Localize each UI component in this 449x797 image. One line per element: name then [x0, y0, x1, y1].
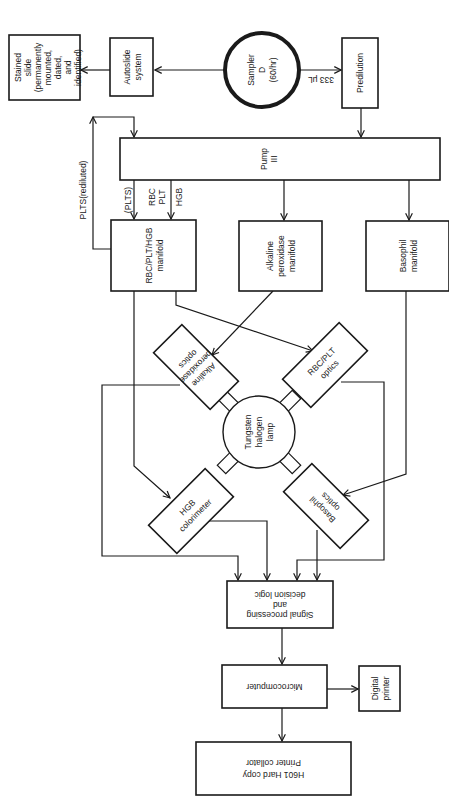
node-label: slide	[23, 58, 33, 76]
node-sampler: Sampler D (60/hr)	[225, 33, 299, 107]
node-label: decision logic	[254, 590, 306, 600]
node-signal-processing: Signal processing and decision logic	[227, 581, 333, 628]
node-label: manifold	[155, 239, 165, 271]
edge-rbc-manifold-hgb-colorimeter	[134, 291, 170, 498]
plts-label: (PLTS)	[123, 187, 133, 213]
node-label: Stained	[13, 53, 23, 82]
node-label: Predilution	[355, 53, 365, 93]
node-label: Pump	[259, 148, 269, 170]
node-stained-slide: Stained slide (permanently mounted, date…	[9, 35, 83, 100]
plts-rediluted-label: PLTS(rediluted)	[78, 160, 88, 219]
node-label: (60/hr)	[268, 57, 278, 82]
node-label: printer	[381, 676, 391, 700]
rbc-label: RBC	[147, 188, 157, 206]
node-rbc-plt-hgb-manifold: RBC/PLT/HGB manifold	[111, 220, 196, 291]
node-label: H601 Hard copy	[242, 770, 304, 780]
node-label: mounted,	[43, 50, 53, 85]
node-label: Digital	[370, 677, 380, 701]
edge-plts-rediluted-into-pump	[93, 117, 134, 137]
node-basophil-manifold: Basophil manifold	[366, 221, 449, 291]
node-tungsten-halogen-lamp: Tungsten halogen lamp	[223, 396, 295, 468]
plt-label: PLT	[157, 190, 167, 205]
node-label: Sampler	[246, 54, 256, 86]
node-hgb-colorimeter: HGB colorimeter	[149, 469, 234, 554]
node-label: Alkaline	[265, 241, 275, 271]
node-label: manifold	[409, 240, 419, 272]
node-label: Tungsten	[243, 414, 253, 449]
node-pump: Pump III	[120, 138, 440, 180]
edge-baso-manifold-baso-optics	[343, 291, 406, 495]
node-label: Signal processing	[246, 610, 313, 620]
node-label: Microcomputer	[246, 682, 302, 692]
node-label: and	[273, 600, 287, 610]
node-label: dated,	[53, 56, 63, 80]
edge-plts-rediluted-up	[93, 117, 111, 249]
node-alkaline-peroxidase-manifold: Alkaline peroxidase manifold	[239, 221, 322, 291]
node-label: identified)	[73, 49, 83, 86]
node-autoslide-system: Autoslide system	[110, 38, 153, 96]
hgb-label: HGB	[174, 187, 184, 206]
node-label: system	[133, 54, 143, 81]
node-label: D	[257, 67, 267, 73]
node-digital-printer: Digital printer	[359, 666, 400, 711]
node-label: (permanently	[33, 42, 43, 92]
node-label: and	[63, 60, 73, 74]
node-label: Printer collator	[246, 758, 301, 768]
node-label: III	[269, 155, 279, 162]
node-basophil-optics: Basophil optics	[284, 464, 369, 549]
node-label: RBC/PLT/HGB	[144, 227, 154, 283]
node-label: halogen	[254, 417, 264, 448]
volume-label-predilution: 333 μL	[308, 75, 334, 85]
node-label: Basophil	[398, 240, 408, 273]
node-label: manifold	[287, 240, 297, 272]
node-label: peroxidase	[276, 235, 286, 277]
hematology-analyzer-block-diagram: 350 μL 333 μL PLTS(rediluted) (PLTS) RBC…	[0, 0, 449, 797]
node-predilution: Predilution	[342, 38, 378, 108]
node-hard-copy-printer-collator: H601 Hard copy Printer collator	[196, 742, 351, 795]
edge-alk-manifold-alk-optics	[212, 291, 273, 355]
node-microcomputer: Microcomputer	[222, 665, 327, 708]
node-label: lamp	[265, 423, 275, 442]
node-label: Autoslide	[122, 49, 132, 84]
